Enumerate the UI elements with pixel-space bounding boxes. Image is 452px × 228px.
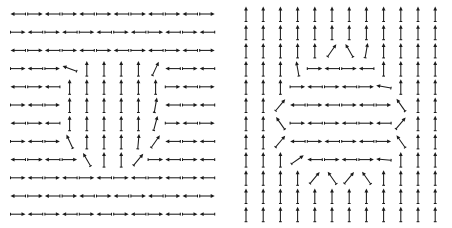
field-arrow bbox=[28, 140, 43, 144]
arrow-head bbox=[387, 140, 391, 144]
field-arrow bbox=[279, 189, 283, 204]
field-arrow bbox=[45, 158, 60, 162]
field-arrow bbox=[261, 116, 265, 131]
arrow-head bbox=[318, 140, 322, 144]
arrow-head bbox=[97, 212, 101, 216]
field-arrow bbox=[165, 158, 180, 162]
field-arrow bbox=[183, 121, 198, 125]
arrow-head bbox=[176, 85, 180, 89]
field-arrow bbox=[62, 158, 77, 162]
field-arrow bbox=[279, 79, 283, 94]
field-arrow bbox=[97, 176, 112, 180]
field-arrow bbox=[342, 121, 357, 125]
arrow-head bbox=[108, 49, 112, 53]
field-arrow bbox=[296, 189, 300, 204]
field-arrow bbox=[165, 30, 180, 34]
arrow-head bbox=[296, 189, 300, 193]
field-arrow bbox=[261, 207, 265, 222]
arrow-head bbox=[347, 189, 351, 193]
arrow-head bbox=[244, 134, 248, 138]
arrow-head bbox=[261, 61, 265, 65]
field-arrow bbox=[325, 85, 340, 89]
field-arrow bbox=[416, 116, 420, 131]
field-arrow bbox=[261, 152, 265, 167]
arrow-head bbox=[39, 194, 43, 198]
field-arrow bbox=[85, 79, 89, 94]
arrow-head bbox=[159, 158, 163, 162]
arrow-head bbox=[382, 207, 386, 211]
arrow-head bbox=[45, 12, 49, 16]
field-arrow bbox=[97, 12, 112, 16]
arrow-head bbox=[433, 134, 437, 138]
arrow-head bbox=[416, 25, 420, 29]
field-arrow bbox=[148, 158, 163, 162]
arrow-head bbox=[176, 121, 180, 125]
arrow-head bbox=[244, 43, 248, 47]
arrow-head bbox=[365, 189, 369, 193]
arrow-head bbox=[261, 134, 265, 138]
field-arrow bbox=[28, 12, 43, 16]
field-arrow bbox=[433, 43, 437, 58]
field-arrow bbox=[362, 172, 372, 185]
field-arrow bbox=[28, 194, 43, 198]
arrow-head bbox=[365, 207, 369, 211]
arrow-head bbox=[11, 121, 15, 125]
arrow-shaft bbox=[85, 156, 91, 166]
field-arrow bbox=[114, 194, 129, 198]
arrow-head bbox=[342, 85, 346, 89]
field-arrow bbox=[296, 25, 300, 40]
field-arrow bbox=[68, 79, 72, 94]
field-arrow bbox=[183, 85, 198, 89]
field-arrow bbox=[102, 152, 106, 167]
field-arrow bbox=[244, 152, 248, 167]
arrow-head bbox=[45, 121, 49, 125]
panel-left bbox=[0, 0, 226, 228]
arrow-head bbox=[11, 12, 15, 16]
arrow-shaft bbox=[278, 120, 285, 130]
arrow-head bbox=[68, 116, 72, 120]
field-arrow bbox=[291, 155, 304, 165]
field-arrow bbox=[359, 85, 374, 89]
arrow-head bbox=[56, 176, 60, 180]
arrow-shaft bbox=[154, 101, 156, 112]
arrow-head bbox=[165, 212, 169, 216]
field-arrow bbox=[342, 140, 357, 144]
field-arrow bbox=[279, 61, 283, 76]
arrow-head bbox=[102, 61, 106, 65]
field-arrow bbox=[200, 176, 215, 180]
arrow-head bbox=[85, 98, 89, 102]
arrow-head bbox=[261, 116, 265, 120]
arrow-head bbox=[279, 61, 283, 65]
field-arrow bbox=[45, 194, 60, 198]
field-arrow bbox=[433, 134, 437, 149]
field-arrow bbox=[347, 7, 351, 22]
arrow-head bbox=[433, 98, 437, 102]
field-arrow bbox=[11, 67, 26, 71]
arrow-head bbox=[433, 79, 437, 83]
arrow-shaft bbox=[276, 138, 283, 147]
field-arrow bbox=[102, 98, 106, 113]
arrow-head bbox=[183, 194, 187, 198]
arrow-head bbox=[119, 152, 123, 156]
field-arrow bbox=[200, 30, 215, 34]
arrow-shaft bbox=[151, 138, 158, 148]
field-arrow bbox=[279, 25, 283, 40]
arrow-head bbox=[313, 43, 317, 47]
field-arrow bbox=[313, 43, 317, 58]
field-arrow bbox=[399, 152, 403, 167]
arrow-head bbox=[194, 67, 198, 71]
arrow-tail bbox=[76, 70, 77, 73]
arrow-head bbox=[416, 170, 420, 174]
field-arrow bbox=[327, 44, 337, 57]
arrow-head bbox=[200, 103, 204, 107]
field-arrow bbox=[11, 212, 26, 216]
arrow-shaft bbox=[380, 159, 392, 160]
field-arrow bbox=[347, 207, 351, 222]
arrow-head bbox=[28, 30, 32, 34]
arrow-head bbox=[68, 79, 72, 83]
arrow-head bbox=[137, 134, 141, 138]
field-arrow bbox=[183, 12, 198, 16]
field-arrow bbox=[296, 207, 300, 222]
arrow-head bbox=[211, 194, 215, 198]
arrow-head bbox=[211, 121, 215, 125]
